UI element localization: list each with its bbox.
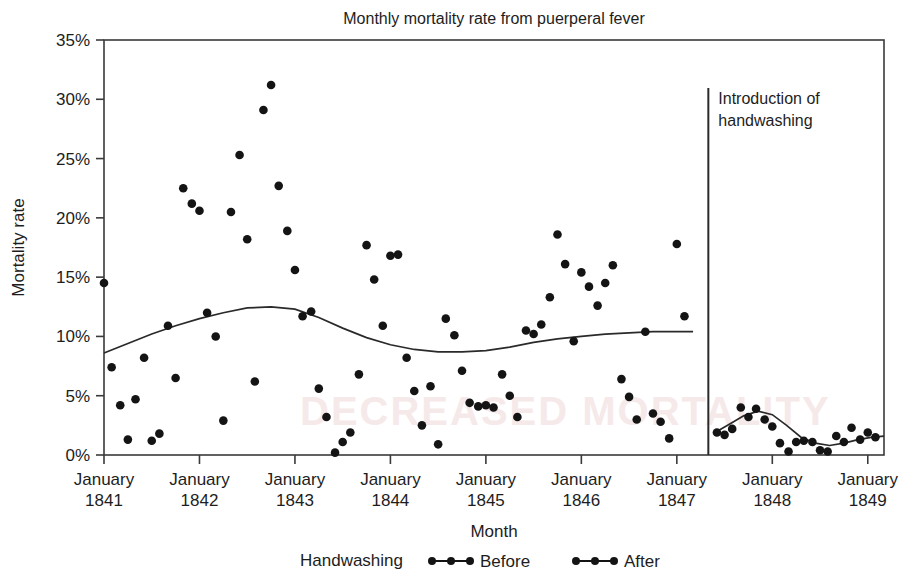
data-point	[434, 440, 443, 449]
data-point	[832, 432, 841, 441]
x-tick-label-year: 1841	[85, 491, 123, 510]
data-point	[513, 413, 522, 422]
x-tick-label-year: 1848	[753, 491, 791, 510]
data-point	[394, 250, 403, 259]
legend-marker-dot	[447, 557, 455, 565]
data-point	[728, 425, 737, 434]
legend-marker-dot	[428, 557, 436, 565]
legend-marker-after	[572, 557, 618, 565]
data-point	[577, 268, 586, 277]
data-point	[744, 413, 753, 422]
y-tick-label: 30%	[56, 90, 90, 109]
data-point	[164, 321, 173, 330]
y-tick-label: 5%	[65, 387, 90, 406]
data-point	[307, 307, 316, 316]
y-tick-label: 35%	[56, 31, 90, 50]
chart-figure: DECREASED MORTALITYMonthly mortality rat…	[0, 0, 918, 587]
data-point	[474, 402, 483, 411]
x-tick-label-year: 1847	[658, 491, 696, 510]
data-point	[760, 415, 769, 424]
data-point	[140, 353, 149, 362]
data-point	[131, 395, 140, 404]
data-point	[593, 301, 602, 310]
data-point	[641, 327, 650, 336]
x-tick-label-year: 1842	[181, 491, 219, 510]
y-axis: 0%5%10%15%20%25%30%35%	[56, 31, 104, 465]
data-point	[188, 199, 197, 208]
data-point	[529, 330, 538, 339]
data-point	[179, 184, 188, 193]
chart-title: Monthly mortality rate from puerperal fe…	[343, 10, 645, 27]
y-tick-label: 25%	[56, 150, 90, 169]
data-point	[601, 279, 610, 288]
legend-marker-before	[428, 557, 474, 565]
x-tick-label-month: January	[360, 470, 421, 489]
y-tick-label: 15%	[56, 268, 90, 287]
data-point	[283, 227, 292, 236]
data-point	[291, 266, 300, 275]
data-point	[402, 353, 411, 362]
data-point	[784, 447, 793, 456]
data-point	[505, 391, 514, 400]
data-point	[155, 429, 164, 438]
data-point	[298, 312, 307, 321]
data-point	[823, 447, 832, 456]
data-point	[227, 208, 236, 217]
data-point	[219, 416, 228, 425]
data-point	[441, 314, 450, 323]
data-point	[856, 435, 865, 444]
x-tick-label-month: January	[74, 470, 135, 489]
data-point	[522, 326, 531, 335]
data-point	[410, 387, 419, 396]
x-tick-label-year: 1849	[849, 491, 887, 510]
x-tick-label-year: 1844	[371, 491, 409, 510]
data-point	[680, 312, 689, 321]
legend-marker-dot	[591, 557, 599, 565]
data-point	[322, 413, 331, 422]
data-point	[537, 320, 546, 329]
legend-marker-dot	[572, 557, 580, 565]
data-point	[450, 331, 459, 340]
x-axis: January1841January1842January1843January…	[74, 455, 899, 510]
data-point	[107, 363, 116, 372]
y-axis-title: Mortality rate	[9, 198, 28, 296]
data-point	[609, 261, 618, 270]
data-point	[792, 438, 801, 447]
data-point	[458, 367, 467, 376]
data-point	[370, 275, 379, 284]
data-point	[418, 421, 427, 430]
data-point	[847, 423, 856, 432]
data-point	[195, 206, 204, 215]
data-point	[267, 81, 276, 90]
annotation-line-1: Introduction of	[718, 90, 820, 107]
data-point	[752, 404, 761, 413]
data-point	[498, 370, 507, 379]
data-point	[553, 230, 562, 239]
data-point	[720, 431, 729, 440]
data-point	[378, 321, 387, 330]
legend-title: Handwashing	[300, 551, 403, 570]
data-point	[561, 260, 570, 269]
x-axis-title: Month	[470, 522, 517, 541]
data-point	[871, 433, 880, 442]
x-tick-label-year: 1846	[562, 491, 600, 510]
x-tick-label-year: 1845	[467, 491, 505, 510]
x-tick-label-month: January	[647, 470, 708, 489]
y-tick-label: 20%	[56, 209, 90, 228]
x-tick-label-month: January	[265, 470, 326, 489]
data-point	[243, 235, 252, 244]
data-point	[426, 382, 435, 391]
data-point	[585, 282, 594, 291]
data-point	[482, 401, 491, 410]
data-point	[274, 182, 283, 191]
trendline-before	[104, 307, 693, 353]
chart-canvas: DECREASED MORTALITYMonthly mortality rat…	[0, 0, 918, 587]
data-point	[259, 106, 268, 115]
data-point	[649, 409, 658, 418]
data-point	[736, 403, 745, 412]
data-point	[665, 434, 674, 443]
data-point	[673, 240, 682, 249]
legend-label-before: Before	[480, 552, 530, 571]
data-point	[203, 308, 212, 317]
data-point	[235, 151, 244, 160]
